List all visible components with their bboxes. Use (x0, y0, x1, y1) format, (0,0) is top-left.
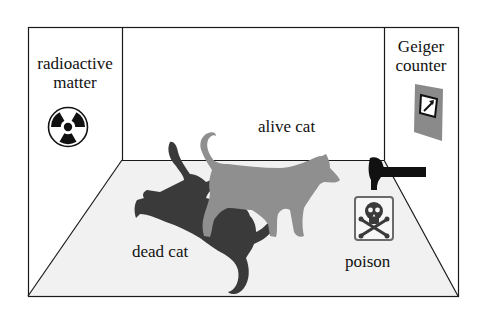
label-poison: poison (345, 252, 390, 271)
label-geiger: Geiger (384, 37, 458, 56)
label-matter: matter (28, 73, 122, 92)
radiation-icon (49, 108, 88, 147)
label-geiger-counter: Geiger counter (384, 37, 458, 75)
label-radioactive: radioactive (28, 54, 122, 73)
label-radioactive-matter: radioactive matter (28, 54, 122, 92)
label-dead-cat: dead cat (132, 242, 188, 261)
label-alive-cat: alive cat (258, 117, 315, 136)
geiger-counter-icon (414, 84, 443, 141)
skull-crossbones-icon (355, 197, 393, 240)
label-counter: counter (384, 56, 458, 75)
